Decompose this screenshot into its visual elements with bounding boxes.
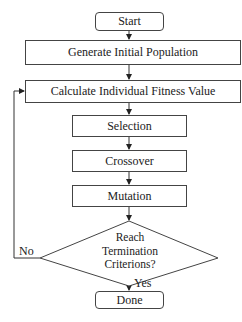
selection-label: Selection [107, 119, 152, 134]
crossover-label: Crossover [105, 154, 154, 169]
no-label: No [19, 245, 34, 257]
decision-node: Reach Termination Criterions? [80, 231, 180, 272]
calculate-fitness-label: Calculate Individual Fitness Value [51, 84, 216, 99]
mutation-node: Mutation [72, 185, 187, 207]
decision-line-2: Termination [80, 245, 180, 259]
generate-population-label: Generate Initial Population [68, 45, 198, 60]
calculate-fitness-node: Calculate Individual Fitness Value [25, 80, 241, 103]
start-label: Start [118, 14, 141, 29]
yes-label: Yes [134, 277, 151, 289]
generate-population-node: Generate Initial Population [25, 40, 241, 65]
crossover-node: Crossover [72, 150, 187, 172]
selection-node: Selection [72, 115, 187, 137]
done-node: Done [95, 291, 164, 309]
mutation-label: Mutation [108, 189, 152, 204]
start-node: Start [95, 12, 164, 31]
decision-line-3: Criterions? [80, 258, 180, 272]
done-label: Done [117, 293, 143, 308]
decision-line-1: Reach [80, 231, 180, 245]
